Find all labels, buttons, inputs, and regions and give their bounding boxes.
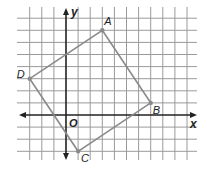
vertex-a-label: A bbox=[103, 15, 111, 27]
y-axis-up-arrow-icon bbox=[63, 8, 69, 15]
vertex-d-point bbox=[28, 77, 32, 81]
coordinate-plane-figure: x y O ABCD bbox=[0, 0, 207, 172]
origin-label: O bbox=[69, 117, 78, 129]
y-axis-label: y bbox=[70, 5, 79, 19]
vertex-a-point bbox=[100, 28, 104, 32]
vertex-d-label: D bbox=[17, 68, 25, 80]
axes: x y O bbox=[19, 5, 198, 160]
x-axis-label: x bbox=[189, 117, 198, 131]
coordinate-plane: x y O ABCD bbox=[0, 0, 207, 172]
x-axis-left-arrow-icon bbox=[19, 112, 26, 118]
vertex-c-label: C bbox=[81, 152, 89, 164]
vertex-c-point bbox=[76, 149, 80, 153]
y-axis-down-arrow-icon bbox=[63, 153, 69, 160]
grid-lines bbox=[17, 7, 197, 160]
vertex-b-label: B bbox=[153, 104, 160, 116]
